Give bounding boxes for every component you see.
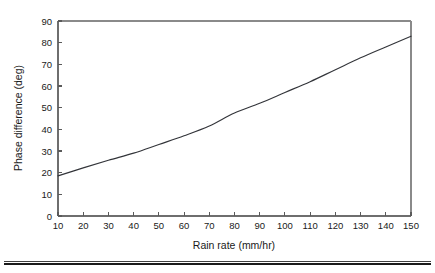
x-tick-label: 100 — [277, 220, 293, 231]
x-tick-label: 80 — [229, 220, 240, 231]
x-tick-label: 70 — [204, 220, 215, 231]
x-tick-label: 140 — [378, 220, 394, 231]
x-tick-label: 90 — [254, 220, 265, 231]
phase-difference-vs-rain-rate-chart: 0102030405060708090 10203040506070809010… — [0, 0, 435, 273]
figure-container: 0102030405060708090 10203040506070809010… — [0, 0, 435, 273]
y-tick-label: 80 — [41, 37, 52, 48]
x-axis-title: Rain rate (mm/hr) — [193, 239, 275, 251]
y-tick-label: 60 — [41, 81, 52, 92]
x-tick-label: 60 — [179, 220, 190, 231]
chart-background — [0, 0, 435, 273]
x-tick-label: 120 — [327, 220, 343, 231]
y-tick-label: 70 — [41, 59, 52, 70]
y-tick-label: 40 — [41, 124, 52, 135]
y-tick-label: 90 — [41, 16, 52, 27]
y-tick-label: 50 — [41, 102, 52, 113]
y-axis-title: Phase difference (deg) — [12, 65, 24, 171]
x-tick-label: 20 — [78, 220, 89, 231]
y-tick-label: 30 — [41, 146, 52, 157]
x-tick-label: 30 — [103, 220, 114, 231]
y-tick-label: 20 — [41, 167, 52, 178]
y-tick-label: 0 — [47, 211, 52, 222]
x-tick-label: 110 — [303, 220, 318, 231]
y-tick-label: 10 — [41, 189, 52, 200]
x-tick-label: 10 — [53, 220, 64, 231]
x-tick-label: 130 — [353, 220, 369, 231]
x-tick-label: 150 — [403, 220, 419, 231]
x-tick-label: 40 — [128, 220, 139, 231]
x-tick-label: 50 — [154, 220, 165, 231]
